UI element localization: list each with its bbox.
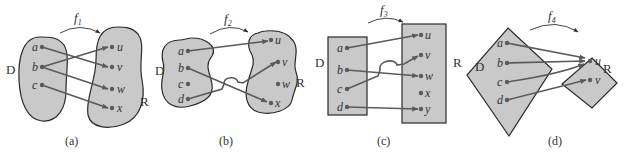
element-c: c bbox=[32, 78, 38, 92]
domain-set-d bbox=[19, 37, 67, 121]
element-w: w bbox=[425, 69, 433, 83]
function-label: f2 bbox=[224, 11, 232, 28]
caption-a: (a) bbox=[65, 134, 78, 148]
caption-c: (c) bbox=[377, 134, 390, 148]
range-label: R bbox=[140, 94, 149, 109]
range-label: R bbox=[296, 75, 305, 90]
element-u: u bbox=[117, 40, 123, 54]
domain-label: D bbox=[155, 63, 164, 78]
function-label: f4 bbox=[548, 8, 556, 25]
range-label: R bbox=[603, 61, 612, 76]
element-a: a bbox=[178, 44, 184, 58]
domain-label: D bbox=[475, 59, 484, 74]
diagram-c: f3 D R a b c d u v w x y (c) bbox=[315, 2, 462, 148]
element-w: w bbox=[117, 82, 125, 96]
element-v: v bbox=[425, 48, 431, 62]
caption-d: (d) bbox=[548, 134, 562, 148]
element-b: b bbox=[32, 60, 38, 74]
element-c: c bbox=[337, 82, 343, 96]
function-label: f1 bbox=[74, 10, 82, 27]
function-label: f3 bbox=[380, 2, 388, 19]
element-w: w bbox=[282, 77, 290, 91]
diagram-d: f4 D R a b c d u v (d) bbox=[467, 8, 617, 148]
element-d: d bbox=[178, 92, 185, 106]
element-b: b bbox=[497, 56, 503, 70]
diagram-a: f1 D R a b c u v w x (a) bbox=[6, 10, 149, 148]
element-x: x bbox=[116, 101, 123, 115]
element-x: x bbox=[424, 86, 431, 100]
element-c: c bbox=[178, 77, 184, 91]
element-d: d bbox=[497, 93, 504, 107]
element-u: u bbox=[595, 54, 601, 68]
domain-label: D bbox=[6, 62, 15, 77]
element-b: b bbox=[337, 63, 343, 77]
caption-b: (b) bbox=[219, 134, 233, 148]
element-a: a bbox=[337, 41, 343, 55]
element-y: y bbox=[424, 102, 431, 116]
element-v: v bbox=[117, 60, 123, 74]
element-d: d bbox=[337, 100, 344, 114]
element-u: u bbox=[425, 28, 431, 42]
element-b: b bbox=[178, 61, 184, 75]
range-label: R bbox=[453, 55, 462, 70]
element-a: a bbox=[497, 36, 503, 50]
element-u: u bbox=[275, 33, 281, 47]
element-v: v bbox=[595, 73, 601, 87]
element-a: a bbox=[32, 40, 38, 54]
domain-label: D bbox=[315, 55, 324, 70]
range-set-r bbox=[87, 27, 143, 127]
element-x: x bbox=[274, 96, 281, 110]
element-c: c bbox=[497, 75, 503, 89]
element-v: v bbox=[282, 55, 288, 69]
function-mapping-figure: f1 D R a b c u v w x (a) f2 D R a b c d … bbox=[0, 0, 628, 152]
diagram-b: f2 D R a b c d u v w x (b) bbox=[155, 11, 305, 148]
